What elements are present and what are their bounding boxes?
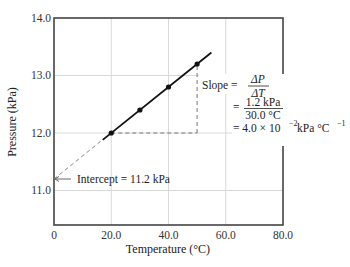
svg-text:13.0: 13.0 (31, 69, 51, 81)
svg-text:11.0: 11.0 (31, 184, 51, 196)
chart: Intercept = 11.2 kPa 14.0 13.0 12.0 11.0… (0, 0, 350, 267)
svg-text:ΔP: ΔP (250, 73, 265, 85)
x-axis-label: Temperature (°C) (126, 242, 210, 256)
y-tick-labels: 14.0 13.0 12.0 11.0 (31, 12, 51, 196)
intercept-label: Intercept = 11.2 kPa (77, 173, 170, 186)
svg-text:30.0 °C: 30.0 °C (245, 109, 281, 121)
x-tick-labels: 0 20.0 40.0 60.0 80.0 (51, 229, 293, 241)
y-axis-label: Pressure (kPa) (5, 87, 19, 157)
svg-text:20.0: 20.0 (101, 229, 121, 241)
data-point (137, 107, 142, 112)
svg-text:14.0: 14.0 (31, 12, 51, 24)
data-point (109, 130, 114, 135)
svg-text:80.0: 80.0 (273, 229, 293, 241)
intercept-arrow-icon (55, 177, 71, 182)
svg-text:1.2 kPa: 1.2 kPa (246, 96, 281, 108)
svg-text:=: = (233, 101, 240, 113)
svg-text:12.0: 12.0 (31, 127, 51, 139)
svg-text:60.0: 60.0 (216, 229, 236, 241)
svg-text:−1: −1 (337, 119, 346, 128)
svg-text:Slope =: Slope = (202, 79, 238, 92)
data-point (195, 61, 200, 66)
svg-text:= 4.0 × 10: = 4.0 × 10 (233, 122, 281, 134)
data-point (166, 84, 171, 89)
svg-text:0: 0 (51, 229, 57, 241)
svg-text:40.0: 40.0 (158, 229, 178, 241)
svg-text:kPa °C: kPa °C (297, 122, 330, 134)
